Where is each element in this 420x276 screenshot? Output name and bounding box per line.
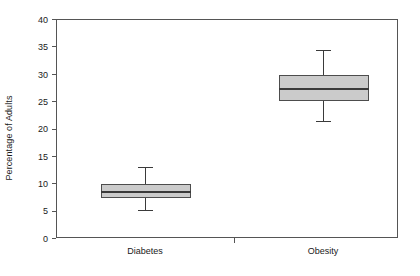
y-axis-title: Percentage of Adults bbox=[0, 0, 18, 276]
y-tick-label-5: 5 bbox=[22, 206, 48, 216]
y-tick-label-25: 25 bbox=[22, 97, 48, 107]
x-tick-label-diabetes: Diabetes bbox=[100, 246, 190, 256]
whisker-cap-lower-obesity bbox=[316, 121, 331, 122]
whisker-upper-diabetes bbox=[145, 167, 146, 185]
whisker-upper-obesity bbox=[323, 50, 324, 75]
y-tick-label-10: 10 bbox=[22, 179, 48, 189]
plot-area bbox=[56, 19, 398, 238]
whisker-lower-obesity bbox=[323, 101, 324, 122]
x-tick-label-obesity: Obesity bbox=[278, 246, 368, 256]
y-tick-label-15: 15 bbox=[22, 152, 48, 162]
y-tick-label-35: 35 bbox=[22, 42, 48, 52]
x-tick-mark-midpoint bbox=[234, 238, 235, 243]
median-line-obesity bbox=[279, 88, 369, 90]
median-line-diabetes bbox=[101, 191, 191, 193]
y-tick-label-30: 30 bbox=[22, 70, 48, 80]
y-tick-mark-0 bbox=[52, 238, 56, 239]
box-plot-figure: Percentage of Adults 0 5 10 15 20 25 30 … bbox=[0, 0, 420, 276]
y-tick-label-20: 20 bbox=[22, 124, 48, 134]
y-tick-label-0: 0 bbox=[22, 234, 48, 244]
whisker-cap-upper-obesity bbox=[316, 50, 331, 51]
whisker-cap-lower-diabetes bbox=[138, 210, 153, 211]
y-tick-label-40: 40 bbox=[22, 15, 48, 25]
whisker-cap-upper-diabetes bbox=[138, 167, 153, 168]
